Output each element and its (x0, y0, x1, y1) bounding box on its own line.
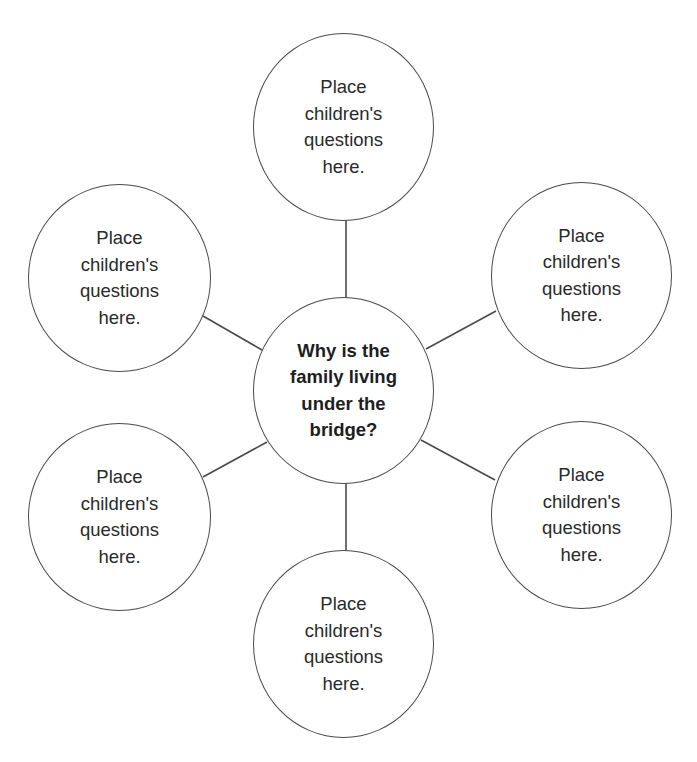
center-question-node: Why is the family living under the bridg… (253, 297, 434, 484)
satellite-text: Place children's questions here. (274, 74, 414, 180)
satellite-node-lower-right: Place children's questions here. (491, 421, 672, 609)
satellite-text: Place children's questions here. (512, 462, 652, 568)
connector-lower-left (203, 442, 267, 477)
satellite-text: Place children's questions here. (274, 591, 414, 697)
connector-upper-left (203, 316, 262, 350)
satellite-node-upper-left: Place children's questions here. (28, 184, 211, 372)
connector-lower-right (421, 440, 495, 480)
satellite-node-top: Place children's questions here. (253, 33, 434, 221)
connector-upper-right (426, 311, 496, 349)
satellite-text: Place children's questions here. (512, 223, 652, 329)
satellite-text: Place children's questions here. (50, 464, 190, 570)
satellite-text: Place children's questions here. (50, 225, 190, 331)
center-question-text: Why is the family living under the bridg… (269, 338, 419, 444)
satellite-node-bottom: Place children's questions here. (253, 550, 434, 738)
satellite-node-lower-left: Place children's questions here. (28, 423, 211, 611)
satellite-node-upper-right: Place children's questions here. (491, 182, 672, 369)
